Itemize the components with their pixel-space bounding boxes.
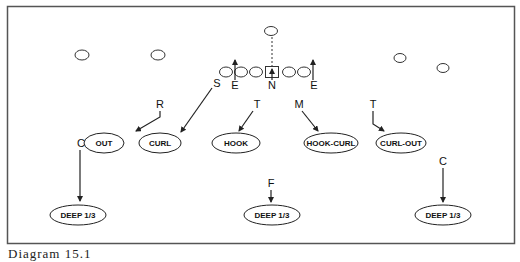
lineman-marker bbox=[235, 67, 248, 77]
defender-label-free-safety: F bbox=[268, 177, 275, 189]
strong-safety-drop-arrow bbox=[181, 88, 212, 132]
zone-label: DEEP 1/3 bbox=[426, 211, 462, 220]
receiver-marker bbox=[75, 50, 89, 60]
tackle-right-drop-arrow bbox=[373, 111, 384, 131]
diagram-frame bbox=[8, 7, 515, 244]
zone-label: DEEP 1/3 bbox=[255, 211, 291, 220]
defender-label-tackle-left: T bbox=[254, 98, 261, 110]
defender-label-rover: R bbox=[156, 98, 164, 110]
coverage-zones: OUT CURL HOOK HOOK-CURL CURL-OUT DEEP 1/… bbox=[50, 133, 471, 225]
rover-drop-arrow bbox=[136, 111, 160, 131]
zone-label: HOOK bbox=[224, 139, 248, 148]
zone-deep-third-left: DEEP 1/3 bbox=[50, 205, 106, 225]
zone-curl: CURL bbox=[139, 133, 181, 153]
zone-deep-third-right: DEEP 1/3 bbox=[415, 205, 471, 225]
defender-label-tackle-right: T bbox=[370, 98, 377, 110]
receiver-marker bbox=[437, 64, 449, 73]
zone-deep-third-middle: DEEP 1/3 bbox=[244, 205, 300, 225]
offensive-line bbox=[220, 67, 311, 78]
receiver-marker bbox=[151, 50, 165, 60]
mike-drop-arrow bbox=[302, 111, 318, 131]
zone-curl-out: CURL-OUT bbox=[376, 133, 426, 153]
zone-label: DEEP 1/3 bbox=[61, 211, 97, 220]
lineman-marker bbox=[283, 67, 296, 77]
diagram-caption: Diagram 15.1 bbox=[8, 246, 91, 262]
zone-hook-curl: HOOK-CURL bbox=[304, 133, 358, 153]
defender-label-end-left: E bbox=[231, 79, 238, 91]
tackle-left-drop-arrow bbox=[239, 111, 253, 131]
defender-labels: E N E S R T M T C C F bbox=[77, 77, 447, 189]
defender-label-strong-safety: S bbox=[213, 77, 220, 89]
zone-label: OUT bbox=[96, 139, 113, 148]
zone-out: OUT bbox=[84, 133, 124, 153]
offense-receivers bbox=[75, 50, 449, 73]
lineman-marker bbox=[298, 67, 311, 77]
defender-label-nose: N bbox=[268, 79, 276, 91]
zone-label: CURL bbox=[149, 139, 171, 148]
zone-label: CURL-OUT bbox=[380, 139, 422, 148]
zone-label: HOOK-CURL bbox=[307, 139, 356, 148]
quarterback-marker bbox=[265, 27, 278, 36]
lineman-marker bbox=[220, 67, 233, 77]
defender-label-end-right: E bbox=[310, 79, 317, 91]
receiver-marker bbox=[394, 54, 406, 63]
defender-label-corner-right: C bbox=[439, 155, 447, 167]
zone-hook: HOOK bbox=[212, 133, 260, 153]
lineman-marker bbox=[250, 67, 263, 77]
defender-label-mike: M bbox=[294, 98, 303, 110]
